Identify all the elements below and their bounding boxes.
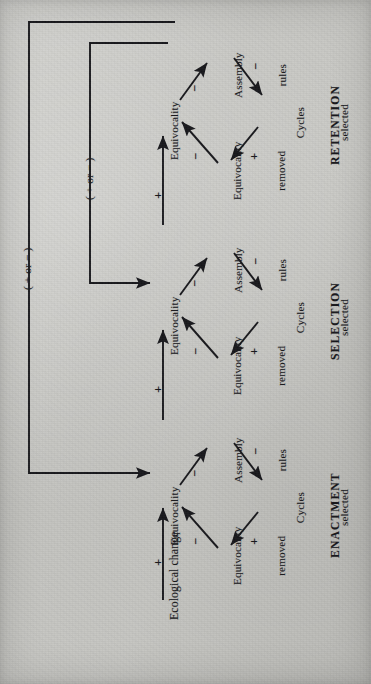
selection-sign-assembly-to-cycles: − (250, 258, 263, 265)
inner-loop-sign: ( + or − ) (84, 158, 96, 200)
enactment-equivocality-removed: Equivocality removed (199, 527, 320, 585)
selection-sign-removed-to-equivocality: − (190, 348, 203, 355)
selection-sign-equivocality-to-assembly: − (189, 280, 202, 287)
figure-canvas: Enactment Equivocality ===== --> SELECTI… (0, 0, 371, 684)
inner-feedback-loop-path (90, 43, 168, 283)
selection-equivocality: Equivocality (169, 297, 180, 355)
sign-enactment-to-selection: + (152, 386, 165, 393)
sign-selection-to-retention: + (152, 192, 165, 199)
outer-loop-sign: ( + or − ) (22, 248, 34, 290)
outer-feedback-loop-path (29, 22, 175, 473)
enactment-sign-removed-to-equivocality: − (190, 538, 203, 545)
retention-sign-assembly-to-cycles: − (250, 63, 263, 70)
retention-sign-equivocality-to-assembly: − (189, 85, 202, 92)
enactment-assembly-rules: Assembly rules (200, 437, 321, 483)
retention-sign-removed-to-equivocality: − (190, 153, 203, 160)
stage-title-selection: SELECTION (330, 282, 342, 360)
sign-ecological-change: + (152, 559, 165, 566)
retention-equivocality: Equivocality (169, 102, 180, 160)
enactment-sign-assembly-to-cycles: − (250, 448, 263, 455)
enactment-sign-equivocality-to-assembly: − (189, 470, 202, 477)
retention-assembly-rules: Assembly rules (200, 52, 321, 98)
selection-sign-cycles-to-removed: + (248, 348, 261, 355)
enactment-sign-cycles-to-removed: + (248, 538, 261, 545)
selection-equivocality-removed: Equivocality removed (199, 337, 320, 395)
enactment-equivocality: Equivocality (169, 487, 180, 545)
selection-assembly-rules: Assembly rules (200, 247, 321, 293)
enactment-cycles-selected: Cycles selected (262, 489, 371, 526)
retention-cycles-selected: Cycles selected (262, 104, 371, 141)
retention-sign-cycles-to-removed: + (248, 153, 261, 160)
stage-title-enactment: ENACTMENT (330, 472, 342, 558)
selection-cycles-selected: Cycles selected (262, 299, 371, 336)
retention-equivocality-removed: Equivocality removed (199, 142, 320, 200)
stage-title-retention: RETENTION (330, 85, 342, 165)
